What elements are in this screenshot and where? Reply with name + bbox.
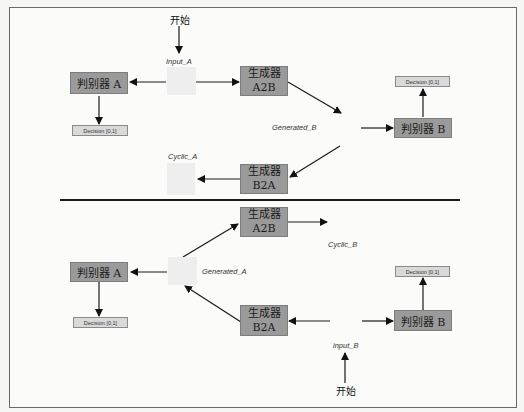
- discriminator-b-bottom: 判别器 B: [394, 310, 452, 331]
- section-divider: [60, 199, 460, 201]
- decision-a-bottom: Decision [0,1]: [73, 317, 128, 328]
- generator-a2b-top-line2: A2B: [252, 81, 275, 95]
- cyclic-a-placeholder: [167, 163, 195, 195]
- generator-b2a-top-line2: B2A: [252, 179, 275, 193]
- generated-b-label: Generated_B: [272, 123, 317, 132]
- decision-b-top: Decision [0,1]: [395, 76, 450, 87]
- connector-arrows: [0, 0, 524, 412]
- discriminator-b-top: 判别器 B: [394, 118, 452, 138]
- input-a-placeholder: [167, 67, 196, 95]
- start-label-bottom: 开始: [336, 383, 356, 398]
- input-b-label: input_B: [333, 341, 358, 350]
- discriminator-a-top: 判别器 A: [70, 72, 128, 94]
- generator-b2a-bottom-line2: B2A: [252, 321, 275, 335]
- generator-a2b-bottom-line1: 生成器: [248, 208, 281, 222]
- cyclic-b-label: Cyclic_B: [328, 240, 357, 249]
- generator-a2b-bottom-line2: A2B: [252, 222, 275, 236]
- generator-b2a-top: 生成器 B2A: [240, 164, 288, 194]
- generator-b2a-bottom-line1: 生成器: [248, 307, 281, 321]
- generator-a2b-bottom: 生成器 A2B: [240, 207, 288, 237]
- discriminator-a-bottom: 判别器 A: [70, 262, 128, 282]
- start-label-top: 开始: [170, 12, 190, 27]
- decision-a-top: Decision [0,1]: [72, 125, 128, 136]
- input-a-label: Input_A: [166, 57, 192, 66]
- generator-b2a-top-line1: 生成器: [248, 165, 281, 179]
- generated-a-label: Generated_A: [202, 267, 247, 276]
- cyclic-a-label: Cyclic_A: [168, 152, 197, 161]
- decision-b-bottom: Decision [0,1]: [395, 266, 450, 277]
- generator-a2b-top-line1: 生成器: [248, 67, 281, 81]
- generator-a2b-top: 生成器 A2B: [240, 66, 288, 96]
- generated-a-placeholder: [168, 257, 197, 285]
- generator-b2a-bottom: 生成器 B2A: [240, 305, 288, 336]
